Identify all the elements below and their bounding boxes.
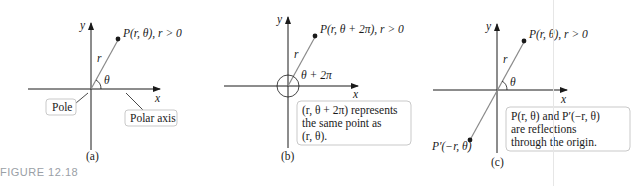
polar-axis-leader [126, 93, 143, 110]
callout-line-2: the same point as [302, 117, 382, 130]
callout-line-1: P(r, θ) and P′(−r, θ) [511, 110, 600, 123]
point-p [313, 34, 318, 39]
page-divider [553, 0, 554, 186]
callout-line-3: through the origin. [511, 136, 597, 149]
y-axis-label: y [485, 20, 492, 33]
radius-label: r [97, 52, 102, 64]
panel-c: y x P(r, θ), r > 0 P′(−r, θ) r θ P(r, θ)… [431, 20, 630, 169]
pole-callout: Pole [52, 101, 72, 113]
pole-leader [76, 93, 88, 103]
point-label: P(r, θ + 2π), r > 0 [319, 23, 404, 36]
angle-arc [96, 80, 101, 89]
panel-b: y x P(r, θ + 2π), r > 0 r θ + 2π (r, θ +… [224, 13, 411, 163]
figure-caption: FIGURE 12.18 [0, 166, 78, 178]
radius-label: r [503, 53, 508, 65]
y-axis-label: y [79, 19, 86, 32]
panel-sublabel: (a) [86, 150, 99, 163]
panel-sublabel: (c) [491, 156, 504, 169]
radius-label: r [294, 48, 299, 60]
callout-line-1: (r, θ + 2π) represents [302, 104, 398, 117]
angle-label: θ [104, 74, 110, 86]
polar-axis-callout: Polar axis [130, 112, 176, 124]
x-axis-label: x [154, 92, 161, 104]
polar-coordinates-figure: y x P(r, θ), r > 0 r θ Pole Polar axis (… [0, 0, 633, 186]
callout-line-2: are reflections [511, 123, 577, 135]
point-p [522, 39, 527, 44]
reflected-point-label: P′(−r, θ) [431, 140, 472, 153]
panel-sublabel: (b) [281, 150, 295, 163]
angle-arc [502, 81, 507, 90]
panel-a: y x P(r, θ), r > 0 r θ Pole Polar axis (… [28, 19, 182, 163]
y-axis-label: y [276, 13, 283, 26]
x-axis-label: x [352, 88, 359, 100]
x-axis-label: x [560, 93, 567, 105]
point-p [116, 37, 121, 42]
angle-label: θ [510, 76, 516, 88]
point-label: P(r, θ), r > 0 [122, 27, 182, 40]
callout-line-3: (r, θ). [302, 130, 327, 143]
point-label: P(r, θ), r > 0 [528, 28, 588, 41]
angle-label: θ + 2π [301, 69, 333, 81]
